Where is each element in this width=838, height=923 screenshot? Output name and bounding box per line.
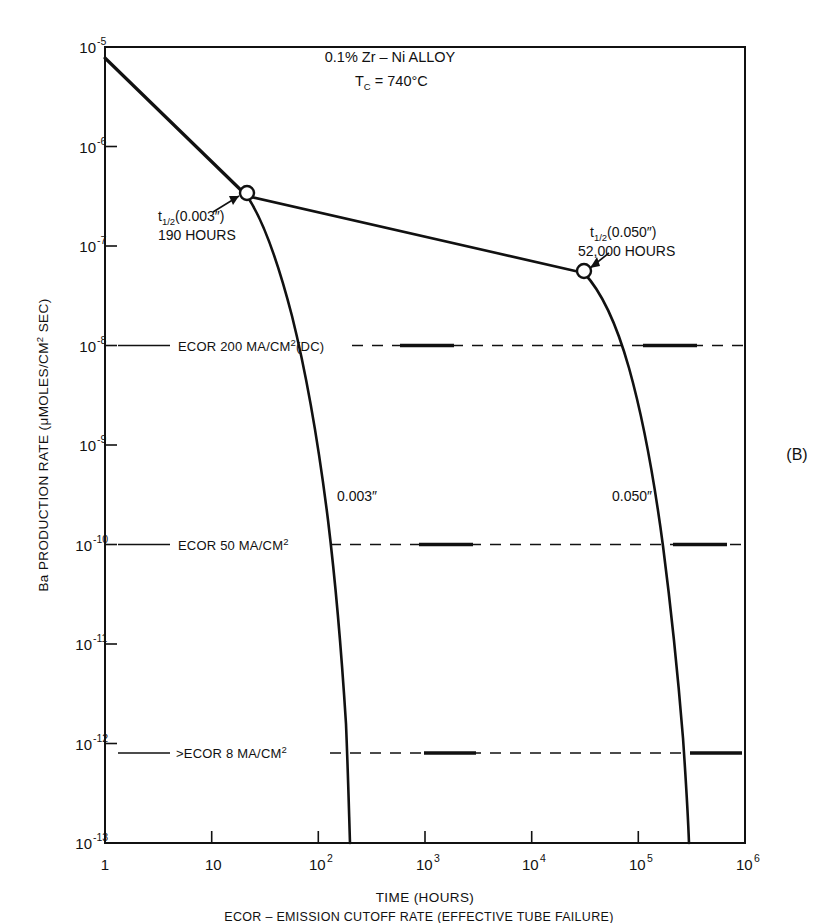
x-tick-exp: 6 bbox=[754, 852, 760, 864]
x-tick-label: 1 bbox=[101, 856, 109, 873]
y-axis-title: Ba PRODUCTION RATE (μMOLES/CM2 SEC) bbox=[34, 298, 51, 591]
y-tick-label: 10 bbox=[79, 338, 96, 355]
y-tick-label: 10 bbox=[79, 238, 96, 255]
y-tick-exp: -10 bbox=[93, 533, 108, 545]
y-tick-label: 10 bbox=[79, 39, 96, 56]
y-tick-exp: -6 bbox=[97, 135, 106, 147]
x-tick-exp: 4 bbox=[540, 852, 546, 864]
panel-label: (B) bbox=[786, 446, 807, 463]
x-tick-label: 10 bbox=[309, 856, 326, 873]
figure-background bbox=[0, 0, 838, 923]
marker-knee-0003 bbox=[240, 186, 254, 200]
x-tick-exp: 3 bbox=[434, 852, 440, 864]
y-tick-exp: -9 bbox=[97, 433, 106, 445]
y-tick-label: 10 bbox=[79, 437, 96, 454]
annotation-0003-line2: 190 HOURS bbox=[158, 227, 236, 243]
y-tick-label: 10 bbox=[75, 835, 92, 852]
y-tick-label: 10 bbox=[75, 636, 92, 653]
x-tick-label: 10 bbox=[629, 856, 646, 873]
y-tick-exp: -5 bbox=[97, 35, 106, 47]
x-tick-label: 10 bbox=[416, 856, 433, 873]
marker-knee-0050 bbox=[577, 264, 591, 278]
y-tick-exp: -8 bbox=[97, 334, 106, 346]
figure-container: 10 -5 10 -6 10 -7 10 -8 10 -9 10 -10 10 … bbox=[0, 0, 838, 923]
ecor-label-200: ECOR 200 MA/CM2(DC) bbox=[178, 337, 324, 354]
ecor-label-8: >ECOR 8 MA/CM2 bbox=[176, 744, 287, 761]
figure-caption: ECOR – EMISSION CUTOFF RATE (EFFECTIVE T… bbox=[224, 910, 613, 923]
header-alloy-line: 0.1% Zr – Ni ALLOY bbox=[325, 49, 456, 65]
x-axis-title: TIME (HOURS) bbox=[376, 890, 475, 905]
curve-label-0003: 0.003″ bbox=[337, 488, 377, 504]
x-tick-label: 10 bbox=[205, 856, 222, 873]
y-tick-exp: -13 bbox=[93, 831, 108, 843]
y-tick-label: 10 bbox=[75, 736, 92, 753]
annotation-0050-line2: 52,000 HOURS bbox=[578, 243, 675, 259]
curve-label-0050: 0.050″ bbox=[612, 488, 652, 504]
y-tick-exp: -11 bbox=[93, 632, 108, 644]
x-tick-exp: 2 bbox=[327, 852, 333, 864]
y-tick-exp: -12 bbox=[93, 732, 108, 744]
y-tick-exp: -7 bbox=[97, 234, 106, 246]
y-tick-label: 10 bbox=[79, 139, 96, 156]
x-tick-label: 10 bbox=[522, 856, 539, 873]
x-tick-label: 10 bbox=[736, 856, 753, 873]
y-tick-label: 10 bbox=[75, 537, 92, 554]
ecor-label-50: ECOR 50 MA/CM2 bbox=[178, 536, 289, 553]
x-tick-exp: 5 bbox=[647, 852, 653, 864]
